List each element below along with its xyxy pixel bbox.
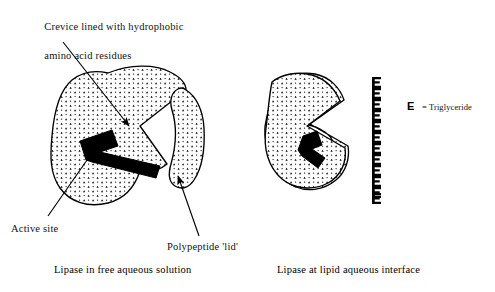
triglyceride-e-5 [372,121,381,132]
legend-triglyceride-symbol: E [407,100,414,112]
triglyceride-e-10 [372,176,381,187]
right-panel-lipase-open [265,73,349,189]
triglyceride-e-8 [372,154,381,165]
triglyceride-e-4 [372,110,381,121]
legend-triglyceride-text: = Triglyceride [422,102,472,113]
label-crevice: Crevice lined with hydrophobic amino aci… [33,6,184,77]
label-crevice-line2: amino acid residues [44,50,131,61]
triglyceride-e-7 [372,143,381,154]
polypeptide-lid [169,88,204,188]
triglyceride-e-3 [372,99,381,110]
triglyceride-interface-column [372,77,381,204]
caption-right-panel: Lipase at lipid aqueous interface [277,264,420,275]
label-crevice-line1: Crevice lined with hydrophobic [44,21,183,32]
lipase-diagram: Crevice lined with hydrophobic amino aci… [0,0,495,292]
label-polypeptide-lid: Polypeptide 'lid' [167,240,238,254]
protein-body-open-main [265,73,345,188]
triglyceride-e-12 [372,193,381,204]
triglyceride-e-1 [372,77,381,88]
triglyceride-e-2 [372,88,381,99]
triglyceride-e-6 [372,132,381,143]
label-active-site: Active site [11,222,58,236]
caption-left-panel: Lipase in free aqueous solution [54,264,191,275]
triglyceride-e-9 [372,165,381,176]
protein-body-closed [51,66,186,205]
